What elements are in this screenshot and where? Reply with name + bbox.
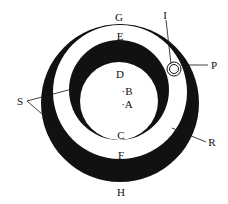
label-H: H: [117, 186, 125, 198]
eccentric-circles-diagram: G E D ·B ·A C F H I P S R: [0, 0, 228, 204]
label-R: R: [208, 136, 216, 148]
label-F: F: [118, 149, 124, 161]
leader-line-S-lower: [27, 101, 42, 114]
label-S: S: [17, 95, 23, 107]
label-B: ·B: [122, 85, 133, 97]
label-G: G: [115, 11, 123, 23]
label-D: D: [116, 68, 124, 80]
label-I: I: [163, 9, 167, 21]
label-P: P: [211, 59, 217, 71]
label-E: E: [117, 30, 124, 42]
label-A: ·A: [121, 98, 133, 110]
label-C: C: [117, 129, 124, 141]
